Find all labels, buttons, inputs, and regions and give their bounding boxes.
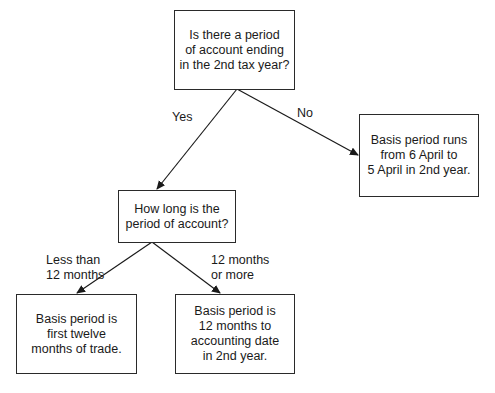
question-box-period-length: How long is the period of account? bbox=[118, 190, 236, 243]
result-box-12-or-more: Basis period is 12 months to accounting … bbox=[175, 294, 295, 374]
result-text: Basis period is 12 months to accounting … bbox=[191, 304, 279, 364]
arrow-yes bbox=[157, 89, 237, 189]
edge-label-less: Less than 12 months bbox=[46, 253, 104, 283]
result-text: Basis period runs from 6 April to 5 Apri… bbox=[368, 133, 471, 178]
question-text: How long is the period of account? bbox=[126, 202, 229, 232]
question-box-period-ending: Is there a period of account ending in t… bbox=[174, 10, 295, 90]
result-box-less-than-12: Basis period is first twelve months of t… bbox=[16, 294, 137, 374]
edge-label-more: 12 months or more bbox=[211, 253, 269, 283]
result-box-no: Basis period runs from 6 April to 5 Apri… bbox=[359, 114, 479, 197]
edge-label-yes: Yes bbox=[172, 110, 192, 125]
arrow-no bbox=[237, 89, 358, 155]
question-text: Is there a period of account ending in t… bbox=[180, 28, 290, 73]
result-text: Basis period is first twelve months of t… bbox=[31, 312, 121, 357]
arrow-more bbox=[152, 242, 220, 293]
edge-label-no: No bbox=[297, 106, 313, 121]
